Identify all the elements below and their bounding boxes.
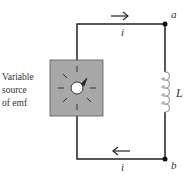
arrow-right-icon (111, 12, 128, 20)
current-top-label: i (121, 26, 124, 38)
node-b-dot (163, 157, 168, 162)
source-label: Variable source of emf (2, 71, 48, 110)
source-label-line: source (2, 84, 48, 97)
node-a-dot (163, 22, 168, 27)
current-bottom-label: i (121, 161, 124, 173)
node-b-label: b (171, 159, 177, 171)
inductor-label: L (176, 86, 183, 101)
node-a-label: a (171, 8, 177, 20)
source-label-line: Variable (2, 71, 48, 84)
inductor-coil (162, 72, 170, 112)
source-label-line: of emf (2, 97, 48, 110)
arrow-left-icon (113, 147, 130, 155)
